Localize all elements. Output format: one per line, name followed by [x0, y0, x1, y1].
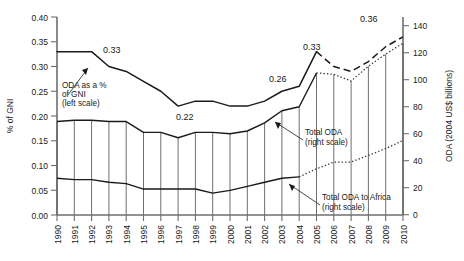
- annot-total-oda-line1: Total ODA: [305, 128, 343, 137]
- annot-total-oda-line2: (right scale): [305, 138, 348, 147]
- annot-oda-gni-line2: of GNI: [62, 90, 86, 99]
- right-axis-ticks: [403, 26, 409, 215]
- right-tick-label: 100: [413, 75, 427, 85]
- x-tick-label-2007: 2007: [347, 225, 357, 244]
- left-tick-label: 0.25: [31, 87, 48, 97]
- left-axis-title: % of GNI: [5, 99, 15, 133]
- annot-oda-gni-line3: (left scale): [62, 99, 100, 108]
- arrow-head-icon: [82, 68, 88, 75]
- x-tick-label-2004: 2004: [295, 225, 305, 244]
- right-tick-label: 20: [413, 183, 423, 193]
- left-axis-tick-labels: 0.40 0.35 0.30 0.25 0.20 0.15 0.10 0.05 …: [31, 13, 48, 221]
- x-tick-label-1998: 1998: [191, 225, 201, 244]
- left-tick-label: 0.00: [31, 211, 48, 221]
- annot-total-oda-africa-line2: (right scale): [322, 203, 365, 212]
- right-axis-tick-labels: 140 120 100 80 60 40 20 0: [413, 21, 427, 220]
- x-tick-label-2009: 2009: [381, 225, 391, 244]
- right-axis-title: ODA (2004 US$ billions): [444, 70, 454, 162]
- right-tick-label: 0: [413, 210, 418, 220]
- x-tick-label-1995: 1995: [139, 225, 149, 244]
- x-tick-label-1994: 1994: [122, 225, 132, 244]
- right-tick-label: 60: [413, 129, 423, 139]
- data-label-0p33-2005: 0.33: [303, 42, 321, 52]
- left-axis-ticks: [51, 17, 57, 215]
- right-tick-label: 120: [413, 48, 427, 58]
- left-tick-label: 0.10: [31, 161, 48, 171]
- left-tick-label: 0.35: [31, 37, 48, 47]
- right-tick-label: 140: [413, 21, 427, 31]
- x-tick-label-2002: 2002: [260, 225, 270, 244]
- annot-total-oda-africa-line1: Total ODA to Africa: [322, 193, 391, 202]
- area-hatching: [57, 43, 403, 214]
- x-axis-tick-labels: 1990199119921993199419951996199719981999…: [53, 225, 409, 244]
- x-tick-label-1990: 1990: [53, 225, 63, 244]
- x-tick-label-2005: 2005: [312, 225, 322, 244]
- x-tick-label-2010: 2010: [399, 225, 409, 244]
- series-line-oda-as-a-of-gni-projected: [317, 37, 404, 72]
- x-tick-label-1993: 1993: [104, 225, 114, 244]
- x-tick-label-2006: 2006: [329, 225, 339, 244]
- left-tick-label: 0.15: [31, 136, 48, 146]
- oda-trend-chart: 0.40 0.35 0.30 0.25 0.20 0.15 0.10 0.05 …: [0, 0, 464, 261]
- left-tick-label: 0.05: [31, 186, 48, 196]
- data-label-0p33-1992: 0.33: [103, 45, 121, 55]
- x-tick-label-2001: 2001: [243, 225, 253, 244]
- x-tick-label-2000: 2000: [226, 225, 236, 244]
- chart-container: 0.40 0.35 0.30 0.25 0.20 0.15 0.10 0.05 …: [0, 0, 464, 261]
- left-tick-label: 0.30: [31, 62, 48, 72]
- left-tick-label: 0.40: [31, 13, 48, 23]
- x-tick-label-1999: 1999: [208, 225, 218, 244]
- right-tick-label: 40: [413, 156, 423, 166]
- data-label-0p22-1998: 0.22: [176, 112, 194, 122]
- data-label-0p26-2004: 0.26: [269, 74, 287, 84]
- x-axis-ticks: [57, 215, 403, 221]
- data-label-0p36-2010: 0.36: [360, 14, 378, 24]
- left-tick-label: 0.20: [31, 112, 48, 122]
- x-tick-label-2008: 2008: [364, 225, 374, 244]
- annot-oda-gni: ODA as a % of GNI (left scale): [62, 68, 107, 108]
- x-tick-label-2003: 2003: [277, 225, 287, 244]
- right-tick-label: 80: [413, 102, 423, 112]
- annot-total-oda: Total ODA (right scale): [275, 122, 348, 147]
- x-tick-label-1997: 1997: [174, 225, 184, 244]
- annot-total-oda-africa: Total ODA to Africa (right scale): [289, 184, 391, 212]
- annot-oda-gni-line1: ODA as a %: [62, 81, 107, 90]
- x-tick-label-1996: 1996: [156, 225, 166, 244]
- x-tick-label-1991: 1991: [70, 225, 80, 244]
- x-tick-label-1992: 1992: [87, 225, 97, 244]
